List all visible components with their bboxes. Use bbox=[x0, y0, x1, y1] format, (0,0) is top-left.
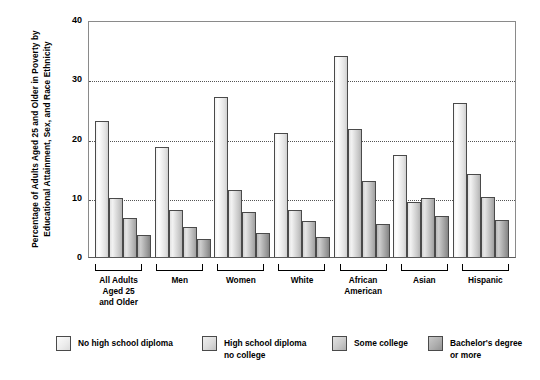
x-category: Hispanic bbox=[455, 259, 515, 321]
y-tick-40: 40 bbox=[44, 15, 82, 25]
y-axis-tick-labels: 403020100 bbox=[44, 0, 82, 280]
bar[interactable] bbox=[256, 233, 270, 257]
x-category-label: African American bbox=[344, 275, 382, 297]
bar[interactable] bbox=[376, 224, 390, 257]
bar[interactable] bbox=[316, 237, 330, 257]
bar[interactable] bbox=[334, 56, 348, 257]
bar[interactable] bbox=[123, 218, 137, 257]
x-category: All Adults Aged 25 and Older bbox=[89, 259, 149, 321]
bar[interactable] bbox=[155, 147, 169, 257]
bar[interactable] bbox=[362, 181, 376, 257]
bar-group bbox=[393, 22, 449, 257]
bar[interactable] bbox=[435, 216, 449, 257]
y-tick-20: 20 bbox=[44, 134, 82, 144]
bar[interactable] bbox=[109, 198, 123, 257]
bar[interactable] bbox=[453, 103, 467, 257]
bar[interactable] bbox=[228, 190, 242, 257]
bar[interactable] bbox=[467, 174, 481, 257]
x-category: African American bbox=[333, 259, 393, 321]
bar[interactable] bbox=[274, 133, 288, 257]
y-tick-30: 30 bbox=[44, 74, 82, 84]
category-bracket bbox=[340, 264, 387, 271]
bar[interactable] bbox=[393, 155, 407, 258]
bar[interactable] bbox=[137, 235, 151, 257]
bar-groups bbox=[89, 22, 515, 257]
category-bracket bbox=[462, 264, 509, 271]
x-category-label: Women bbox=[226, 275, 256, 286]
legend-swatch-icon bbox=[332, 336, 347, 351]
plot-area bbox=[88, 21, 516, 258]
x-category: White bbox=[272, 259, 332, 321]
category-bracket bbox=[217, 264, 264, 271]
x-category-label: Men bbox=[171, 275, 188, 286]
x-category: Men bbox=[150, 259, 210, 321]
bar[interactable] bbox=[183, 227, 197, 257]
y-tick-0: 0 bbox=[44, 252, 82, 262]
bar[interactable] bbox=[214, 97, 228, 257]
bar-group bbox=[453, 22, 509, 257]
legend-swatch-icon bbox=[428, 336, 443, 351]
bar[interactable] bbox=[407, 202, 421, 257]
legend-item[interactable]: No high school diploma bbox=[56, 336, 202, 351]
bar[interactable] bbox=[495, 220, 509, 257]
bar[interactable] bbox=[169, 210, 183, 257]
bar-group bbox=[334, 22, 390, 257]
x-category-label: Asian bbox=[413, 275, 436, 286]
x-axis-categories: All Adults Aged 25 and OlderMenWomenWhit… bbox=[88, 259, 516, 321]
bar[interactable] bbox=[421, 198, 435, 257]
legend-label: Bachelor's degree or more bbox=[450, 336, 522, 361]
bar-group bbox=[214, 22, 270, 257]
y-tick-10: 10 bbox=[44, 193, 82, 203]
category-bracket bbox=[401, 264, 448, 271]
x-category: Asian bbox=[394, 259, 454, 321]
bar-group bbox=[274, 22, 330, 257]
legend-label: High school diploma no college bbox=[224, 336, 306, 361]
bar-group bbox=[95, 22, 151, 257]
bar-group bbox=[155, 22, 211, 257]
category-bracket bbox=[156, 264, 203, 271]
legend-item[interactable]: Bachelor's degree or more bbox=[428, 336, 524, 361]
category-bracket bbox=[95, 264, 142, 271]
legend-swatch-icon bbox=[202, 336, 217, 351]
legend-swatch-icon bbox=[56, 336, 71, 351]
legend-label: No high school diploma bbox=[78, 336, 173, 349]
bar[interactable] bbox=[481, 197, 495, 257]
chart-legend: No high school diplomaHigh school diplom… bbox=[56, 336, 524, 372]
legend-label: Some college bbox=[354, 336, 408, 349]
x-category-label: All Adults Aged 25 and Older bbox=[99, 275, 138, 309]
bar[interactable] bbox=[242, 212, 256, 257]
chart-figure: Percentage of Adults Aged 25 and Older i… bbox=[0, 0, 540, 380]
legend-item[interactable]: High school diploma no college bbox=[202, 336, 332, 361]
x-category-label: Hispanic bbox=[468, 275, 503, 286]
bar[interactable] bbox=[288, 210, 302, 257]
legend-item[interactable]: Some college bbox=[332, 336, 428, 351]
bar[interactable] bbox=[95, 121, 109, 257]
x-category: Women bbox=[211, 259, 271, 321]
x-category-label: White bbox=[291, 275, 314, 286]
bar[interactable] bbox=[302, 221, 316, 257]
bar[interactable] bbox=[348, 129, 362, 257]
bar[interactable] bbox=[197, 239, 211, 257]
category-bracket bbox=[278, 264, 325, 271]
